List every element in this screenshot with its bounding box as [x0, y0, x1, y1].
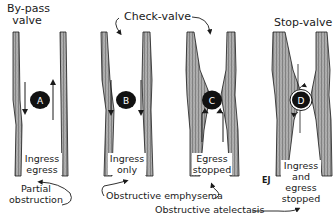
valve-a: A [30, 91, 50, 109]
partial-line2: obstruction [8, 194, 64, 205]
partial-line1: Partial [8, 183, 64, 194]
caption-d-line3: egress [281, 182, 321, 193]
caption-b-line2: only [108, 164, 146, 175]
caption-d-line4: stopped [281, 193, 321, 204]
label-partial-obstruction: Partial obstruction [8, 183, 64, 205]
svg-text:A: A [37, 96, 44, 106]
caption-c-line2: stopped [192, 164, 232, 175]
valve-c: C [202, 91, 222, 110]
label-obstructive-atelectasis: Obstructive atelectasis [155, 204, 264, 215]
svg-text:D: D [298, 96, 305, 106]
artist-mark: EJ [262, 175, 270, 186]
heading-bypass-line2: valve [7, 15, 47, 27]
caption-d-line1: Ingress [281, 160, 321, 171]
svg-text:B: B [123, 96, 129, 106]
caption-a-line1: Ingress [22, 153, 62, 164]
valve-d: D [290, 90, 312, 111]
caption-panel-a: Ingress egress [22, 153, 62, 175]
caption-a-line2: egress [22, 164, 62, 175]
caption-d-line2: and [281, 171, 321, 182]
caption-panel-b: Ingress only [108, 153, 146, 175]
check-valve-arrow-right [192, 17, 210, 32]
caption-b-line1: Ingress [108, 153, 146, 164]
caption-panel-c: Egress stopped [192, 153, 232, 175]
caption-c-line1: Egress [192, 153, 232, 164]
heading-stop-valve: Stop-valve [274, 17, 332, 29]
label-obstructive-emphysema: Obstructive emphysema [106, 190, 223, 201]
heading-bypass-valve: By-pass valve [7, 3, 47, 27]
valve-b: B [116, 91, 136, 109]
svg-text:C: C [209, 96, 215, 106]
check-valve-arrow-left [116, 18, 120, 33]
heading-check-valve: Check-valve [124, 11, 191, 23]
caption-panel-d: Ingress and egress stopped [281, 160, 321, 204]
